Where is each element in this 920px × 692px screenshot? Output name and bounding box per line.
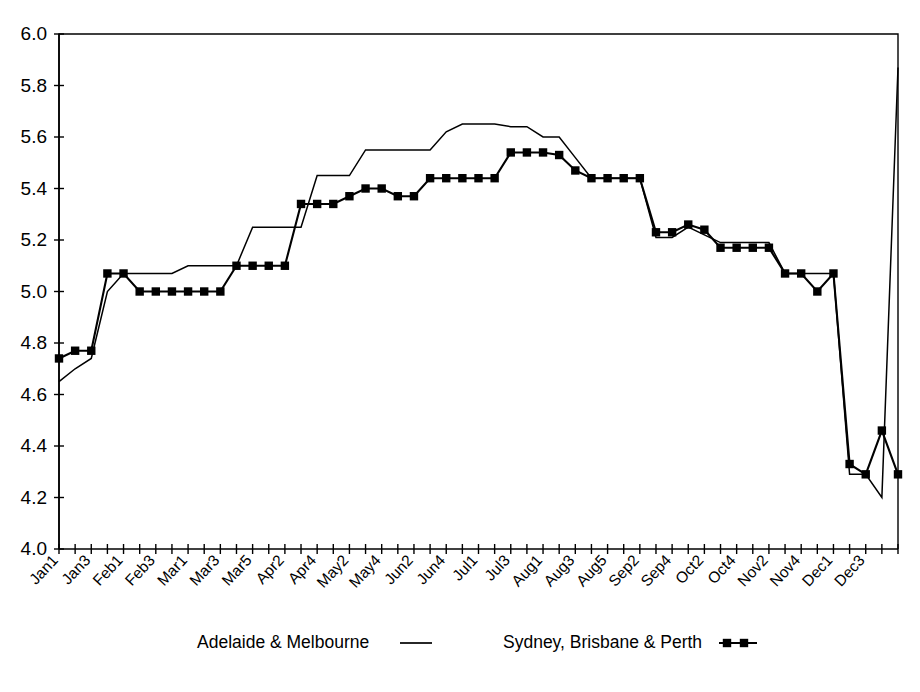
data-point-marker [216,287,224,295]
data-point-marker [410,192,418,200]
data-point-marker [297,200,305,208]
data-point-marker [813,287,821,295]
data-point-marker [765,244,773,252]
x-tick-label: Dec3 [831,551,868,589]
data-point-marker [636,174,644,182]
y-tick-label: 5.8 [21,75,47,96]
series-1 [59,67,898,497]
x-tick-label: Feb3 [121,551,158,588]
y-tick-label: 6.0 [21,23,47,44]
data-point-marker [490,174,498,182]
x-tick-label: Dec1 [799,551,836,589]
x-axis-tick-labels: Jan1Jan3Feb1Feb3Mar1Mar3Mar5Apr2Apr4May2… [26,551,868,591]
data-point-marker [135,287,143,295]
data-point-marker [603,174,611,182]
data-point-marker [474,174,482,182]
data-point-marker [119,269,127,277]
data-point-marker [781,269,789,277]
legend-label-1: Adelaide & Melbourne [197,632,369,652]
line-chart: 4.04.24.44.64.85.05.25.45.65.86.0 Jan1Ja… [0,0,920,692]
data-point-marker [797,269,805,277]
data-point-marker [652,228,660,236]
data-point-marker [845,460,853,468]
data-point-marker [700,226,708,234]
data-point-marker [716,244,724,252]
y-tick-label: 5.2 [21,229,47,250]
data-point-marker [442,174,450,182]
x-tick-label: Nov4 [766,551,803,589]
data-point-marker [168,287,176,295]
data-point-marker [265,262,273,270]
data-point-marker [829,269,837,277]
x-tick-label: Apr2 [252,551,287,587]
x-tick-label: Mar5 [218,551,255,588]
series-2 [55,148,902,478]
data-point-marker [862,470,870,478]
series-path-1 [59,67,898,497]
data-point-marker [152,287,160,295]
x-tick-label: Aug3 [540,551,577,589]
data-point-marker [458,174,466,182]
data-point-marker [539,148,547,156]
data-series-group [55,67,902,497]
y-tick-label: 4.2 [21,487,47,508]
data-point-marker [232,262,240,270]
x-tick-label: Feb1 [89,551,126,588]
x-tick-label: Mar1 [154,551,191,588]
x-tick-label: Oct2 [672,551,707,587]
data-point-marker [55,354,63,362]
data-point-marker [749,244,757,252]
y-tick-label: 4.6 [21,384,47,405]
y-axis-tick-labels: 4.04.24.44.64.85.05.25.45.65.86.0 [21,23,48,559]
data-point-marker [200,287,208,295]
data-point-marker [361,184,369,192]
chart-container: 4.04.24.44.64.85.05.25.45.65.86.0 Jan1Ja… [0,0,920,692]
x-tick-label: Oct4 [704,551,739,587]
data-point-marker [571,166,579,174]
x-tick-label: Jul1 [449,551,481,583]
legend-swatch-marker [740,639,748,647]
data-point-marker [87,347,95,355]
data-point-marker [377,184,385,192]
data-point-marker [507,148,515,156]
data-point-marker [668,228,676,236]
y-tick-label: 5.6 [21,126,47,147]
x-tick-label: Sep4 [637,551,674,589]
x-tick-label: Aug1 [508,551,545,589]
legend-label-2: Sydney, Brisbane & Perth [503,632,702,652]
data-point-marker [426,174,434,182]
x-tick-label: Nov2 [734,551,771,589]
data-point-marker [684,220,692,228]
data-point-marker [620,174,628,182]
x-tick-label: Sep2 [605,551,642,589]
chart-legend: Adelaide & MelbourneSydney, Brisbane & P… [197,632,757,652]
x-tick-label: Apr4 [285,551,320,587]
data-point-marker [345,192,353,200]
data-point-marker [184,287,192,295]
data-point-marker [732,244,740,252]
data-point-marker [878,426,886,434]
data-point-marker [248,262,256,270]
y-tick-label: 5.0 [21,281,47,302]
x-tick-label: May4 [346,551,385,591]
legend-swatch-marker [723,639,731,647]
data-point-marker [329,200,337,208]
x-tick-label: Jan3 [58,551,93,587]
data-point-marker [394,192,402,200]
x-tick-label: Mar3 [186,551,223,588]
data-point-marker [281,262,289,270]
data-point-marker [894,470,902,478]
data-point-marker [523,148,531,156]
y-tick-label: 4.4 [21,435,48,456]
data-point-marker [555,151,563,159]
data-point-marker [313,200,321,208]
data-point-marker [71,347,79,355]
series-path-2 [59,152,898,474]
data-point-marker [103,269,111,277]
x-tick-label: May2 [313,551,351,590]
x-tick-label: Jun2 [381,551,416,587]
x-tick-label: Aug5 [573,551,610,589]
data-point-marker [587,174,595,182]
y-tick-label: 4.0 [21,538,47,559]
x-tick-label: Jun4 [413,551,449,587]
